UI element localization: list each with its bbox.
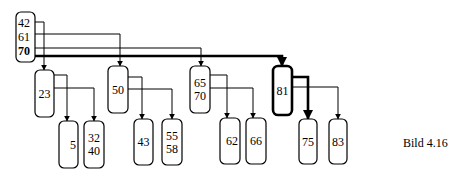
edge-n23-to-n5: [54, 75, 67, 121]
node-key: 43: [138, 135, 150, 149]
node-key: 23: [39, 87, 51, 101]
tree-node-n81: 81: [273, 66, 292, 115]
tree-node-n75: 75: [299, 119, 317, 164]
node-key: 55: [166, 129, 178, 143]
tree-node-n55: 5558: [162, 119, 182, 165]
edge-n81-to-n83: [292, 87, 338, 119]
tree-node-root: 426170: [16, 12, 35, 62]
figure-caption: Bild 4.16: [403, 136, 448, 151]
node-key: 70: [194, 89, 206, 103]
edge-n23-to-n32: [54, 88, 94, 121]
edge-n50-to-n55: [128, 89, 172, 119]
edge-root-to-n23: [35, 22, 44, 70]
tree-node-n65: 6570: [190, 66, 210, 113]
edge-n81-to-n75: [292, 77, 308, 119]
node-key: 75: [302, 135, 314, 149]
tree-node-n5: 5: [59, 121, 78, 168]
node-key: 50: [112, 83, 124, 97]
tree-node-n50: 50: [108, 66, 128, 113]
node-key: 81: [277, 84, 289, 98]
tree-node-n62: 62: [220, 118, 240, 164]
tree-node-n32: 3240: [84, 121, 104, 168]
node-key: 83: [332, 135, 344, 149]
node-key: 58: [166, 142, 178, 156]
node-key: 70: [18, 44, 30, 58]
tree-node-n83: 83: [329, 119, 347, 164]
tree-node-n23: 23: [35, 70, 54, 117]
tree-node-n43: 43: [134, 119, 153, 165]
node-key: 62: [226, 134, 238, 148]
edge-root-to-n50: [35, 34, 120, 66]
edge-root-to-n81: [35, 56, 282, 66]
edge-n65-to-n66: [210, 88, 253, 118]
b-tree-diagram: 42617023506570815324043555862667583: [0, 0, 460, 175]
node-key: 40: [88, 144, 100, 158]
edge-n65-to-n62: [210, 75, 227, 118]
node-key: 65: [194, 76, 206, 90]
tree-node-n66: 66: [246, 118, 266, 164]
node-key: 61: [18, 30, 30, 44]
nodes-layer: 42617023506570815324043555862667583: [16, 12, 347, 168]
node-key: 42: [18, 16, 30, 30]
edge-n50-to-n43: [128, 77, 142, 119]
node-key: 5: [70, 138, 76, 152]
node-key: 32: [88, 131, 100, 145]
node-key: 66: [250, 134, 262, 148]
